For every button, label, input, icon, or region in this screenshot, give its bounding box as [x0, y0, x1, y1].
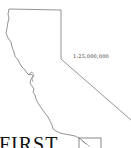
california-map	[0, 0, 131, 148]
page-heading: FIRST	[0, 134, 58, 148]
bay-detail	[29, 72, 34, 82]
state-outline	[6, 9, 131, 144]
map-scale-label: 1:25,000,000	[73, 53, 109, 59]
inset-box	[79, 138, 101, 148]
inset-coast	[82, 141, 90, 147]
